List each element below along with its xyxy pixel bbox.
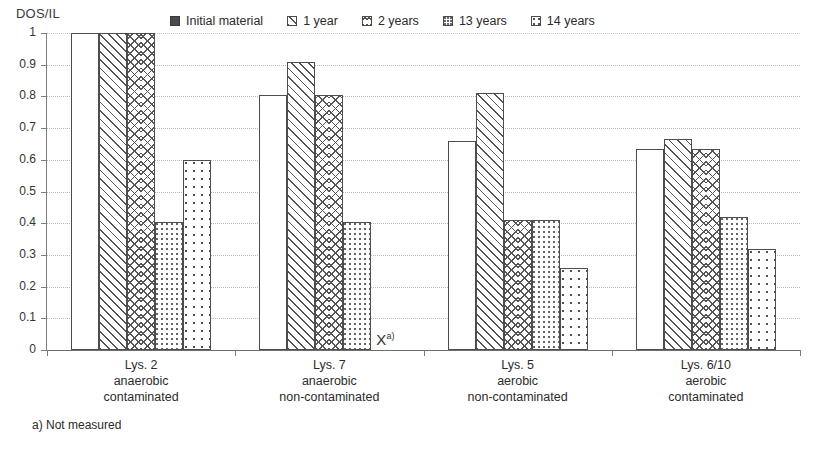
legend-item-1-year: 1 year — [287, 14, 338, 28]
y-axis-tick-label: 0.6 — [0, 152, 36, 166]
category-label-line: Lys. 5 — [424, 357, 612, 373]
legend-label-14-years: 14 years — [547, 14, 595, 28]
y-axis-tick-label: 0.5 — [0, 184, 36, 198]
legend-item-13-years: 13 years — [443, 14, 507, 28]
legend-swatch-speckle-icon — [443, 16, 453, 26]
bar[interactable] — [720, 217, 748, 350]
chart-legend: Initial material 1 year 2 years 13 years… — [170, 14, 595, 28]
x-axis-tick — [47, 350, 48, 356]
footnote: a) Not measured — [32, 418, 121, 432]
bar[interactable] — [287, 62, 315, 350]
legend-swatch-solid-icon — [170, 16, 180, 26]
bar[interactable] — [532, 220, 560, 350]
bar[interactable] — [748, 249, 776, 350]
category-label: Lys. 5aerobicnon-contaminated — [424, 357, 612, 405]
y-axis-tick-label: 0.4 — [0, 215, 36, 229]
y-axis-tick-label: 0.9 — [0, 57, 36, 71]
category-label-line: anaerobic — [47, 373, 235, 389]
bar-group: Xa) — [235, 33, 423, 350]
category-label-line: non-contaminated — [235, 389, 423, 405]
bar[interactable] — [155, 222, 183, 350]
legend-label-initial-material: Initial material — [186, 14, 263, 28]
bar-group — [47, 33, 235, 350]
category-label-line: anaerobic — [235, 373, 423, 389]
legend-item-2-years: 2 years — [362, 14, 419, 28]
legend-item-initial-material: Initial material — [170, 14, 263, 28]
category-label-line: contaminated — [612, 389, 800, 405]
legend-swatch-diagonal-icon — [287, 16, 297, 26]
bar-group — [612, 33, 800, 350]
category-label-line: Lys. 6/10 — [612, 357, 800, 373]
bar-groups: Xa) — [47, 33, 800, 350]
y-axis-tick-label: 0.7 — [0, 120, 36, 134]
category-label-line: contaminated — [47, 389, 235, 405]
bar-group — [424, 33, 612, 350]
x-axis-tick — [800, 350, 801, 356]
category-label-line: Lys. 7 — [235, 357, 423, 373]
bar[interactable] — [560, 268, 588, 350]
bar[interactable] — [692, 149, 720, 350]
y-axis-title: DOS/IL — [16, 6, 60, 21]
y-axis-tick-label: 0.3 — [0, 247, 36, 261]
category-label-line: aerobic — [424, 373, 612, 389]
bar[interactable] — [99, 33, 127, 350]
bar[interactable] — [636, 149, 664, 350]
bar-missing[interactable]: Xa) — [371, 310, 399, 350]
x-axis-tick — [235, 350, 236, 356]
legend-label-1-year: 1 year — [303, 14, 338, 28]
not-measured-marker: Xa) — [376, 331, 394, 348]
bar[interactable] — [183, 160, 211, 350]
legend-swatch-chevron-icon — [362, 16, 372, 26]
x-axis-category-labels: Lys. 2anaerobiccontaminatedLys. 7anaerob… — [47, 357, 800, 417]
bar[interactable] — [315, 95, 343, 350]
y-axis-tick-label: 0.2 — [0, 279, 36, 293]
category-label-line: aerobic — [612, 373, 800, 389]
category-label: Lys. 6/10aerobiccontaminated — [612, 357, 800, 405]
y-axis-tick-label: 0 — [0, 342, 36, 356]
legend-swatch-dots-icon — [531, 16, 541, 26]
bar[interactable] — [476, 93, 504, 350]
bar[interactable] — [343, 222, 371, 350]
x-axis-tick — [612, 350, 613, 356]
category-label: Lys. 2anaerobiccontaminated — [47, 357, 235, 405]
legend-label-2-years: 2 years — [378, 14, 419, 28]
category-label-line: Lys. 2 — [47, 357, 235, 373]
bar[interactable] — [664, 139, 692, 350]
bar[interactable] — [71, 33, 99, 350]
category-label-line: non-contaminated — [424, 389, 612, 405]
bar[interactable] — [448, 141, 476, 350]
x-axis-tick — [424, 350, 425, 356]
legend-item-14-years: 14 years — [531, 14, 595, 28]
y-axis-tick-label: 0.8 — [0, 88, 36, 102]
legend-label-13-years: 13 years — [459, 14, 507, 28]
bar[interactable] — [127, 33, 155, 350]
bar[interactable] — [259, 95, 287, 350]
y-axis-tick-label: 0.1 — [0, 310, 36, 324]
y-axis-tick-label: 1 — [0, 25, 36, 39]
category-label: Lys. 7anaerobicnon-contaminated — [235, 357, 423, 405]
bar[interactable] — [504, 220, 532, 350]
